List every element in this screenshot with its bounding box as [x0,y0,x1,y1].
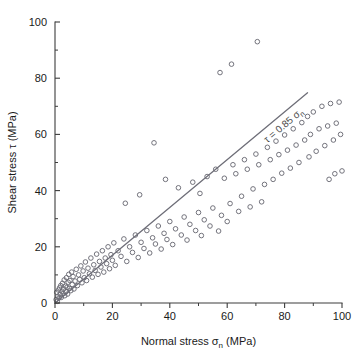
y-tick-label-40: 40 [35,185,47,197]
x-title-units: (MPa) [223,335,256,347]
x-tick-label-20: 20 [106,310,118,322]
y-tick-label-0: 0 [41,297,47,309]
y-axis-title: Shear stress τ (MPa) [6,111,18,213]
y-tick-label-20: 20 [35,241,47,253]
y-tick-label-100: 100 [29,16,47,28]
x-tick-label-60: 60 [221,310,233,322]
x-tick-label-80: 80 [278,310,290,322]
x-tick-label-0: 0 [52,310,58,322]
y-axis-title-text: Shear stress τ (MPa) [6,111,18,213]
y-tick-label-60: 60 [35,128,47,140]
scatter-plot-figure: τ = 0.85 σn 020406080100 020406080100 No… [0,0,359,351]
x-tick-label-100: 100 [333,310,351,322]
shear-vs-normal-stress-chart: τ = 0.85 σn 020406080100 020406080100 No… [0,0,359,351]
x-title-main: Normal stress σ [141,335,219,347]
x-tick-label-40: 40 [164,310,176,322]
y-tick-label-80: 80 [35,72,47,84]
